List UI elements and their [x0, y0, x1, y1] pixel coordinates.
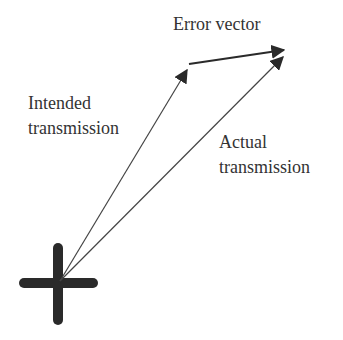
intended-label-line2: transmission [28, 118, 119, 138]
error-vector-arrow [189, 50, 284, 64]
actual-label-line2: transmission [219, 157, 310, 177]
error-vector-label: Error vector [173, 14, 260, 34]
evm-diagram: Error vector Intended transmission Actua… [0, 0, 343, 340]
actual-label-line1: Actual [219, 132, 267, 152]
intended-label-line1: Intended [28, 93, 91, 113]
